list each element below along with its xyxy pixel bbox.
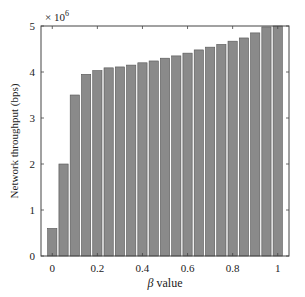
bar: [239, 38, 248, 256]
y-tick-label: 5: [30, 20, 36, 32]
bar: [273, 26, 282, 256]
bar: [205, 47, 214, 256]
y-tick-label: 1: [30, 204, 36, 216]
bar: [81, 74, 90, 256]
x-tick-label: 0: [50, 262, 56, 274]
bar: [183, 53, 192, 256]
bar: [228, 41, 237, 256]
bar-series: [48, 26, 283, 256]
bar: [70, 95, 79, 256]
bar: [59, 164, 68, 256]
x-tick-label: 0.8: [226, 262, 240, 274]
x-tick-label: 0.4: [136, 262, 150, 274]
bar: [251, 33, 260, 256]
x-tick-label: 0.6: [181, 262, 195, 274]
bar: [127, 65, 136, 256]
bar: [194, 50, 203, 256]
bar: [172, 56, 181, 256]
y-multiplier-label: × 106: [45, 9, 69, 23]
y-axis-label: Network throughput (bps): [8, 83, 21, 198]
bar-chart: 00.20.40.60.81 012345 × 106 β value Netw…: [0, 0, 305, 297]
x-axis-label: β value: [147, 276, 183, 290]
bar: [93, 71, 102, 256]
bar: [115, 67, 124, 256]
y-tick-label: 4: [30, 66, 36, 78]
x-tick-label: 0.2: [90, 262, 104, 274]
bar: [48, 228, 57, 256]
x-tick-label: 1: [275, 262, 281, 274]
y-tick-label: 2: [30, 158, 36, 170]
bar: [262, 27, 271, 256]
y-tick-label: 0: [30, 250, 36, 262]
bar: [104, 68, 113, 256]
bar: [149, 61, 158, 256]
y-tick-label: 3: [30, 112, 36, 124]
bar: [217, 44, 226, 256]
chart-canvas: 00.20.40.60.81 012345 × 106 β value Netw…: [0, 0, 305, 297]
bar: [160, 58, 169, 256]
bar: [138, 63, 147, 256]
